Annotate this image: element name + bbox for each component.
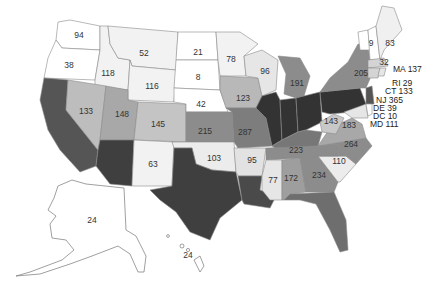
label-nm: 63 xyxy=(148,159,158,169)
label-ne: 42 xyxy=(196,99,206,109)
state-az xyxy=(96,140,134,186)
label-id: 118 xyxy=(101,68,115,78)
label-me: 83 xyxy=(385,38,395,48)
state-mi xyxy=(278,56,310,98)
callout-md: MD 111 xyxy=(370,119,399,129)
label-ok: 103 xyxy=(207,153,221,163)
label-ny: 205 xyxy=(354,68,368,78)
label-nv: 133 xyxy=(79,106,93,116)
state-hi-islands xyxy=(167,235,170,238)
label-wa: 94 xyxy=(74,30,84,40)
label-nc: 264 xyxy=(344,139,358,149)
label-ar: 95 xyxy=(247,155,257,165)
label-sc: 110 xyxy=(332,156,346,166)
state-ak xyxy=(16,180,146,276)
label-ak: 24 xyxy=(87,215,97,225)
label-mi: 191 xyxy=(290,78,304,88)
state-hi-islands xyxy=(180,244,184,248)
state-fl xyxy=(284,192,348,252)
label-ia: 123 xyxy=(236,93,250,103)
label-or: 38 xyxy=(64,60,74,70)
label-mn: 78 xyxy=(226,54,236,64)
label-hi: 24 xyxy=(183,250,193,260)
state-ct xyxy=(368,68,380,78)
label-al: 172 xyxy=(284,173,298,183)
label-ms: 77 xyxy=(268,175,278,185)
label-ut: 148 xyxy=(115,109,129,119)
state-ia xyxy=(220,76,262,108)
state-nj xyxy=(366,86,374,104)
label-co: 145 xyxy=(151,119,165,129)
label-vt: 9 xyxy=(369,38,374,48)
label-wi: 96 xyxy=(260,66,270,76)
label-nd: 21 xyxy=(193,47,203,57)
label-ga: 234 xyxy=(312,170,326,180)
label-nh: 32 xyxy=(379,57,389,67)
label-ks: 215 xyxy=(198,126,212,136)
state-oh xyxy=(296,92,322,132)
label-mo: 287 xyxy=(238,127,252,137)
label-mt: 52 xyxy=(139,48,149,58)
state-hi-big xyxy=(194,256,204,272)
label-wy: 116 xyxy=(145,81,159,91)
us-choropleth-map: 94 38 118 52 116 21 8 42 78 96 191 123 1… xyxy=(0,0,428,291)
label-tn: 223 xyxy=(289,145,303,155)
label-wv: 143 xyxy=(324,116,338,126)
callout-ma: MA 137 xyxy=(393,64,422,74)
state-me xyxy=(376,6,402,60)
label-va: 183 xyxy=(342,120,356,130)
label-sd: 8 xyxy=(196,72,201,82)
